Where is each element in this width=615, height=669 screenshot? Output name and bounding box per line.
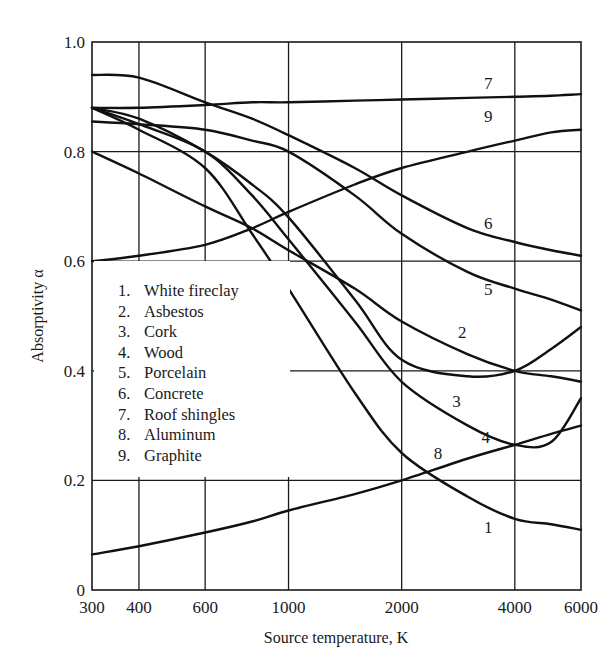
legend-item-7: 7.Roof shingles — [118, 405, 290, 426]
legend-label: Porcelain — [144, 363, 206, 384]
legend-label: Wood — [144, 343, 183, 364]
legend-number: 3. — [118, 322, 144, 343]
legend-number: 8. — [118, 425, 144, 446]
curve-label-5: 5 — [484, 280, 493, 299]
y-axis-title: Absorptivity α — [29, 269, 47, 363]
curve-label-1: 1 — [484, 518, 493, 537]
x-axis-title: Source temperature, K — [264, 629, 409, 647]
legend-number: 2. — [118, 302, 144, 323]
y-axis-ticks: 00.20.40.60.81.0 — [64, 33, 86, 600]
legend-item-2: 2.Asbestos — [118, 302, 290, 323]
y-tick-label: 0.8 — [64, 143, 85, 162]
legend-label: Graphite — [144, 446, 202, 467]
legend-number: 7. — [118, 405, 144, 426]
x-tick-label: 2000 — [385, 598, 419, 617]
legend-item-6: 6.Concrete — [118, 384, 290, 405]
y-tick-label: 0 — [77, 581, 86, 600]
legend-label: Asbestos — [144, 302, 204, 323]
legend-item-9: 9.Graphite — [118, 446, 290, 467]
legend-label: White fireclay — [144, 281, 239, 302]
curve-label-8: 8 — [434, 444, 443, 463]
x-tick-label: 600 — [192, 598, 218, 617]
legend-item-5: 5.Porcelain — [118, 363, 290, 384]
absorptivity-chart: 3004006001000200040006000 00.20.40.60.81… — [0, 0, 615, 669]
legend-item-1: 1.White fireclay — [118, 281, 290, 302]
curve-label-9: 9 — [484, 107, 493, 126]
x-tick-label: 400 — [126, 598, 152, 617]
x-axis-ticks: 3004006001000200040006000 — [79, 598, 598, 617]
y-tick-label: 0.4 — [64, 362, 86, 381]
legend-label: Roof shingles — [144, 405, 235, 426]
legend-number: 5. — [118, 363, 144, 384]
y-tick-label: 1.0 — [64, 33, 85, 52]
legend-label: Cork — [144, 322, 177, 343]
legend-item-3: 3.Cork — [118, 322, 290, 343]
legend-number: 9. — [118, 446, 144, 467]
curve-label-2: 2 — [458, 323, 467, 342]
legend-label: Aluminum — [144, 425, 216, 446]
curve-label-4: 4 — [482, 428, 491, 447]
legend-item-8: 8.Aluminum — [118, 425, 290, 446]
curve-label-3: 3 — [452, 392, 461, 411]
curve-label-6: 6 — [484, 214, 493, 233]
y-tick-label: 0.2 — [64, 471, 85, 490]
x-tick-label: 300 — [79, 598, 105, 617]
legend-number: 1. — [118, 281, 144, 302]
x-tick-label: 6000 — [564, 598, 598, 617]
y-tick-label: 0.6 — [64, 252, 85, 271]
curve-label-7: 7 — [484, 74, 493, 93]
x-tick-label: 4000 — [498, 598, 532, 617]
legend: 1.White fireclay 2.Asbestos 3.Cork 4.Woo… — [94, 261, 290, 477]
legend-label: Concrete — [144, 384, 204, 405]
curve-roof-shingles — [92, 94, 581, 108]
x-tick-label: 1000 — [272, 598, 306, 617]
legend-number: 4. — [118, 343, 144, 364]
legend-number: 6. — [118, 384, 144, 405]
legend-item-4: 4.Wood — [118, 343, 290, 364]
